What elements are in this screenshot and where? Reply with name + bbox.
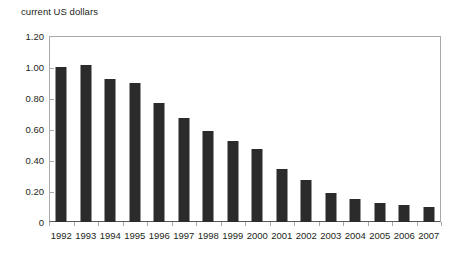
x-axis-tick-label: 2007 xyxy=(418,229,439,242)
x-axis-tickmark xyxy=(343,222,344,226)
bar xyxy=(276,169,287,222)
x-axis-tick-label: 2001 xyxy=(271,229,292,242)
y-axis-tick-label: 0.60 xyxy=(26,124,45,135)
bar-slot xyxy=(49,36,74,222)
bars-layer xyxy=(49,36,441,222)
x-axis-tick-label: 1999 xyxy=(222,229,243,242)
y-axis-labels: 00.200.400.600.801.001.20 xyxy=(0,0,44,254)
x-axis-tickmark xyxy=(74,222,75,226)
bar xyxy=(301,180,312,222)
x-axis-tick-label: 2002 xyxy=(296,229,317,242)
y-axis-tick-label: 0.20 xyxy=(26,186,45,197)
bar-slot xyxy=(123,36,148,222)
bar xyxy=(129,83,140,223)
x-axis-tickmark xyxy=(221,222,222,226)
x-axis-tickmark xyxy=(294,222,295,226)
bar xyxy=(203,131,214,222)
bar-slot xyxy=(294,36,319,222)
x-axis-tickmark xyxy=(172,222,173,226)
bar xyxy=(350,199,361,222)
bar xyxy=(374,203,385,222)
bar xyxy=(178,118,189,222)
bar xyxy=(423,207,434,223)
bar-slot xyxy=(270,36,295,222)
bar-slot xyxy=(319,36,344,222)
x-axis-tick-label: 1998 xyxy=(198,229,219,242)
x-axis-tick-label: 1997 xyxy=(173,229,194,242)
x-axis-labels: 1992199319941995199619971998199920002001… xyxy=(49,229,441,245)
bar xyxy=(227,141,238,222)
bar xyxy=(154,103,165,222)
bar-slot xyxy=(147,36,172,222)
x-axis-tickmark xyxy=(123,222,124,226)
bar-chart-figure: current US dollars 00.200.400.600.801.00… xyxy=(0,0,463,254)
bar xyxy=(105,79,116,222)
y-axis-tick-label: 0.80 xyxy=(26,93,45,104)
bar xyxy=(325,193,336,222)
x-axis-tick-label: 2003 xyxy=(320,229,341,242)
x-axis-tickmark xyxy=(368,222,369,226)
x-axis-tickmark xyxy=(417,222,418,226)
bar xyxy=(399,205,410,222)
x-axis-tick-label: 2000 xyxy=(247,229,268,242)
bar-slot xyxy=(74,36,99,222)
x-axis-tick-label: 1992 xyxy=(51,229,72,242)
bar-slot xyxy=(417,36,442,222)
bar-slot xyxy=(221,36,246,222)
bar-slot xyxy=(245,36,270,222)
x-axis-tick-label: 1993 xyxy=(75,229,96,242)
x-axis-tickmark xyxy=(49,222,50,226)
x-axis-tickmark xyxy=(270,222,271,226)
bar-slot xyxy=(392,36,417,222)
x-axis-tickmark xyxy=(245,222,246,226)
x-axis-tickmark xyxy=(392,222,393,226)
bar-slot xyxy=(172,36,197,222)
y-axis-tick-label: 0 xyxy=(39,217,44,228)
bar-slot xyxy=(343,36,368,222)
x-axis-tickmark xyxy=(98,222,99,226)
x-axis-tickmark xyxy=(441,222,442,226)
bar xyxy=(80,65,91,222)
x-axis-tickmark xyxy=(196,222,197,226)
y-axis-tick-label: 0.40 xyxy=(26,155,45,166)
y-axis-tick-label: 1.00 xyxy=(26,62,45,73)
bar xyxy=(56,67,67,222)
bar-slot xyxy=(98,36,123,222)
x-axis-tick-label: 1995 xyxy=(124,229,145,242)
x-axis-tick-label: 2006 xyxy=(394,229,415,242)
x-axis-tick-label: 2004 xyxy=(345,229,366,242)
x-axis-tickmarks xyxy=(49,222,441,227)
bar-slot xyxy=(196,36,221,222)
x-axis-tick-label: 1994 xyxy=(100,229,121,242)
bar xyxy=(252,149,263,222)
y-axis-tick-label: 1.20 xyxy=(26,31,45,42)
x-axis-tick-label: 1996 xyxy=(149,229,170,242)
x-axis-tick-label: 2005 xyxy=(369,229,390,242)
x-axis-tickmark xyxy=(147,222,148,226)
x-axis-tickmark xyxy=(319,222,320,226)
bar-slot xyxy=(368,36,393,222)
